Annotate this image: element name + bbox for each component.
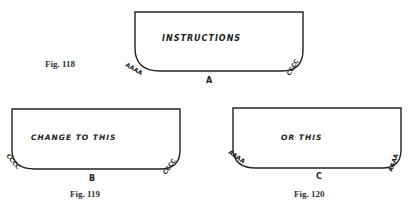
figure-120: OR THIS C AAAA AAAA Fig. 120 — [227, 108, 401, 199]
shape-text-c: OR THIS — [281, 133, 322, 142]
shape-label-c: C — [316, 172, 322, 181]
shape-text-a: INSTRUCTIONS — [162, 34, 241, 43]
figure-caption-118: Fig. 118 — [45, 59, 76, 69]
diagram-canvas: INSTRUCTIONS A AAAA CCCC Fig. 118 CHANGE… — [0, 0, 419, 207]
figure-118: INSTRUCTIONS A AAAA CCCC Fig. 118 — [45, 12, 303, 85]
shape-label-b: B — [89, 174, 95, 183]
left-edge-marks-a: AAAA — [125, 61, 145, 77]
right-edge-marks-b: CCCC — [161, 157, 177, 176]
figure-caption-120: Fig. 120 — [294, 189, 325, 199]
left-edge-marks-b: CCCC — [5, 152, 22, 170]
figure-119: CHANGE TO THIS B CCCC CCCC Fig. 119 — [5, 109, 180, 199]
figure-caption-119: Fig. 119 — [70, 189, 101, 199]
shape-text-b: CHANGE TO THIS — [31, 133, 116, 142]
right-edge-marks-a: CCCC — [285, 57, 300, 76]
shape-label-a: A — [206, 76, 213, 85]
